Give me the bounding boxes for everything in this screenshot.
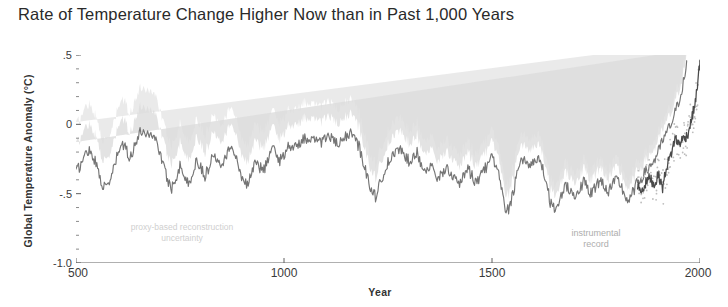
x-axis-ticks xyxy=(76,258,700,263)
y-tick-0: .5 xyxy=(38,49,72,61)
annotation-proxy-line1: proxy-based reconstruction xyxy=(82,222,282,233)
x-tick-3: 2000 xyxy=(668,266,728,280)
x-tick-1: 1000 xyxy=(254,266,314,280)
annotation-instrumental-line2: record xyxy=(536,239,656,250)
x-axis-tick-labels: 500 1000 1500 2000 xyxy=(76,266,700,286)
y-axis-ticks xyxy=(76,55,81,263)
x-tick-2: 1500 xyxy=(462,266,522,280)
page-title: Rate of Temperature Change Higher Now th… xyxy=(18,5,514,24)
x-tick-0: 500 xyxy=(48,266,108,280)
chart-figure: Rate of Temperature Change Higher Now th… xyxy=(0,0,728,307)
annotation-instrumental-record: instrumental record xyxy=(536,228,656,250)
annotation-instrumental-line1: instrumental xyxy=(536,228,656,239)
annotation-proxy-line2: uncertainty xyxy=(82,233,282,244)
annotation-proxy-uncertainty: proxy-based reconstruction uncertainty xyxy=(82,222,282,244)
y-tick-1: 0 xyxy=(38,118,72,130)
x-axis-title: Year xyxy=(0,286,728,298)
y-axis-tick-labels: .5 0 -.5 -1.0 xyxy=(30,0,72,307)
y-tick-2: -.5 xyxy=(38,188,72,200)
